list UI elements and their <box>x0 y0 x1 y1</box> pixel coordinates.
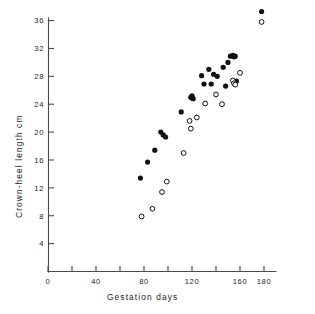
x-tick-label: 160 <box>233 277 247 286</box>
y-tick-label: 4 <box>39 239 44 248</box>
data-point-open <box>188 126 193 131</box>
data-point-open <box>233 82 238 87</box>
x-tick-label: 180 <box>257 277 271 286</box>
chart-canvas: 4812162024283236 04080120160180 Crown-he… <box>0 0 315 314</box>
data-point-filled <box>221 65 226 70</box>
data-point-filled <box>206 67 211 72</box>
axis-lines <box>48 18 276 272</box>
data-point-filled <box>233 54 238 59</box>
data-point-open <box>214 92 219 97</box>
data-point-filled <box>191 96 196 101</box>
data-point-open <box>259 20 264 25</box>
data-point-filled <box>225 60 230 65</box>
data-point-open <box>160 190 165 195</box>
y-axis-label: Crown-heel length cm <box>14 115 24 218</box>
y-tick-label: 20 <box>34 128 44 137</box>
scatter-plot-figure: 4812162024283236 04080120160180 Crown-he… <box>0 0 315 314</box>
data-point-open <box>150 206 155 211</box>
data-point-open <box>164 179 169 184</box>
data-point-open <box>203 101 208 106</box>
data-point-filled <box>179 109 184 114</box>
y-axis-ticks: 4812162024283236 <box>34 16 54 248</box>
data-point-filled <box>259 9 264 14</box>
data-point-filled <box>163 134 168 139</box>
data-point-filled <box>145 159 150 164</box>
data-point-open <box>220 102 225 107</box>
data-point-open <box>187 119 192 124</box>
data-point-open <box>181 151 186 156</box>
data-points <box>138 9 264 219</box>
y-tick-label: 8 <box>39 212 44 221</box>
x-tick-label: 0 <box>46 277 51 286</box>
x-tick-label: 120 <box>185 277 199 286</box>
data-point-open <box>139 214 144 219</box>
data-point-filled <box>209 81 214 86</box>
y-tick-label: 32 <box>34 44 44 53</box>
y-tick-label: 36 <box>34 16 44 25</box>
data-point-open <box>238 70 243 75</box>
x-tick-label: 80 <box>139 277 149 286</box>
y-tick-label: 16 <box>34 156 44 165</box>
data-point-filled <box>152 148 157 153</box>
data-point-filled <box>199 73 204 78</box>
data-point-filled <box>223 83 228 88</box>
y-tick-label: 24 <box>34 100 44 109</box>
x-tick-label: 40 <box>91 277 101 286</box>
data-point-filled <box>201 81 206 86</box>
data-point-filled <box>138 176 143 181</box>
x-axis-ticks: 04080120160180 <box>46 266 272 286</box>
data-point-open <box>194 115 199 120</box>
data-point-filled <box>215 74 220 79</box>
y-tick-label: 28 <box>34 72 44 81</box>
x-axis-label: Gestation days <box>107 292 178 302</box>
y-tick-label: 12 <box>34 184 44 193</box>
